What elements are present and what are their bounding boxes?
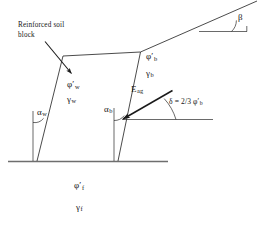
delta-equation-text: δ = 2/3 φ [169, 97, 198, 106]
phi-f-label: φ′f [74, 181, 84, 191]
alpha-w-subscript: w [42, 110, 47, 117]
earth-force-symbol: E [131, 84, 137, 94]
gamma-b-subscript: b [150, 71, 154, 78]
beta-angle-arc [232, 20, 237, 31]
gamma-w-subscript: w [71, 97, 76, 104]
beta-symbol: β [238, 12, 243, 22]
block-top-face-line [63, 52, 141, 56]
beta-label: β [238, 13, 243, 22]
phi-w-label: φ′w [67, 80, 80, 90]
callout-label: Reinforced soil block [18, 21, 94, 40]
callout-label-line1: Reinforced soil [18, 21, 64, 29]
phi-f-subscript: f [81, 184, 84, 191]
phi-b-subscript: b [153, 55, 157, 62]
earth-force-label: Eag [131, 85, 143, 95]
delta-equation-label: δ = 2/3 φ′b [169, 98, 203, 107]
phi-w-subscript: w [74, 83, 79, 90]
gamma-f-subscript: f [80, 205, 83, 212]
callout-label-line2: block [18, 31, 35, 39]
block-right-face-line [118, 52, 141, 161]
earth-force-subscript: ag [137, 87, 144, 94]
alpha-w-label: αw [37, 108, 47, 118]
phi-b-label: φ′b [146, 52, 157, 62]
delta-equation-subscript: b [199, 100, 202, 106]
diagram-canvas: Reinforced soil block αw φ′w γw αb φ′b γ… [0, 0, 258, 227]
gamma-b-label: γb [146, 69, 154, 79]
gamma-w-label: γw [67, 95, 76, 105]
alpha-b-subscript: b [109, 107, 113, 114]
gamma-f-label: γf [76, 203, 83, 213]
alpha-b-label: αb [104, 105, 113, 115]
callout-leader-arrow [45, 42, 72, 74]
alpha-w-angle-arc [33, 118, 44, 122]
backfill-slope-line [141, 1, 258, 52]
